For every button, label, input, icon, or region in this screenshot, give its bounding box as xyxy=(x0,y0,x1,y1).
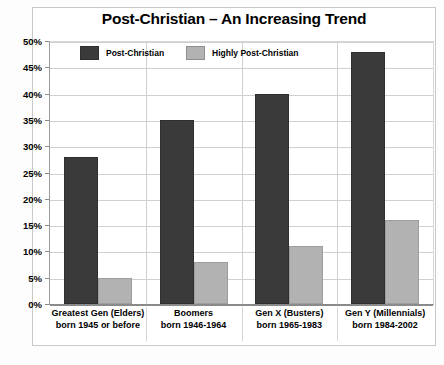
bar-post-christian[interactable] xyxy=(64,157,98,304)
y-axis-tick-label: 45% xyxy=(23,62,42,73)
category-label-separator xyxy=(146,307,147,341)
bar-post-christian[interactable] xyxy=(351,52,385,304)
x-axis-category-label: Gen X (Busters)born 1965-1983 xyxy=(242,307,338,331)
bar-highly-post-christian[interactable] xyxy=(289,246,323,304)
chart-legend: Post-ChristianHighly Post-Christian xyxy=(80,46,299,60)
category-birth-years: born 1965-1983 xyxy=(242,319,338,331)
category-separator xyxy=(242,41,243,304)
bar-group xyxy=(242,41,338,304)
bar-group xyxy=(146,41,242,304)
legend-item[interactable]: Post-Christian xyxy=(80,46,164,60)
chart-title: Post-Christian – An Increasing Trend xyxy=(32,10,436,28)
category-birth-years: born 1946-1964 xyxy=(146,319,242,331)
y-axis-tick-label: 5% xyxy=(28,272,42,283)
legend-label: Highly Post-Christian xyxy=(212,48,298,58)
y-axis: 50%45%40%35%30%25%20%15%10%5%0% xyxy=(0,41,46,305)
category-birth-years: born 1945 or before xyxy=(50,319,146,331)
category-separator xyxy=(337,41,338,304)
chart-figure: Post-Christian – An Increasing Trend 50%… xyxy=(0,0,444,365)
category-name: Greatest Gen (Elders) xyxy=(52,308,145,318)
bar-highly-post-christian[interactable] xyxy=(385,220,419,304)
legend-swatch-icon xyxy=(80,46,99,60)
category-label-separator xyxy=(242,307,243,341)
bar-post-christian[interactable] xyxy=(160,120,194,304)
gridline xyxy=(50,305,433,306)
y-axis-tick-label: 25% xyxy=(23,167,42,178)
bar-post-christian[interactable] xyxy=(255,94,289,304)
bar-highly-post-christian[interactable] xyxy=(98,278,132,304)
y-axis-tick-label: 50% xyxy=(23,36,42,47)
category-separator xyxy=(146,41,147,304)
y-axis-tick-label: 10% xyxy=(23,246,42,257)
category-name: Boomers xyxy=(174,308,213,318)
category-name: Gen X (Busters) xyxy=(255,308,323,318)
y-axis-tick-label: 0% xyxy=(28,299,42,310)
y-axis-tick-label: 15% xyxy=(23,220,42,231)
y-axis-tick-label: 20% xyxy=(23,193,42,204)
bar-group xyxy=(337,41,433,304)
legend-swatch-icon xyxy=(186,46,205,60)
y-axis-tick-label: 35% xyxy=(23,114,42,125)
bars-layer xyxy=(50,41,433,304)
bar-highly-post-christian[interactable] xyxy=(194,262,228,304)
x-axis-category-label: Gen Y (Millennials)born 1984-2002 xyxy=(337,307,433,331)
legend-label: Post-Christian xyxy=(106,48,164,58)
category-name: Gen Y (Millennials) xyxy=(345,308,425,318)
y-axis-tick-label: 40% xyxy=(23,88,42,99)
x-axis-category-label: Greatest Gen (Elders)born 1945 or before xyxy=(50,307,146,331)
bar-group xyxy=(50,41,146,304)
y-axis-tick-label: 30% xyxy=(23,141,42,152)
category-birth-years: born 1984-2002 xyxy=(337,319,433,331)
x-axis-labels: Greatest Gen (Elders)born 1945 or before… xyxy=(50,307,433,341)
legend-item[interactable]: Highly Post-Christian xyxy=(186,46,298,60)
x-axis-category-label: Boomersborn 1946-1964 xyxy=(146,307,242,331)
category-label-separator xyxy=(337,307,338,341)
